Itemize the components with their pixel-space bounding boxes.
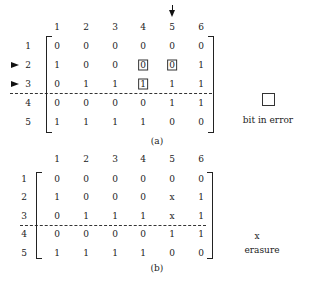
matrix-cell: 0	[54, 98, 60, 108]
matrix-cell: 1	[169, 79, 175, 89]
bit-in-error-cell: 0	[138, 60, 148, 71]
row-arrow-icon	[11, 62, 19, 68]
matrix-cell: 0	[169, 174, 175, 184]
bit-in-error-cell: 1	[138, 79, 148, 90]
matrix-cell: 1	[112, 211, 118, 221]
matrix-cell: 1	[198, 192, 204, 202]
matrix-cell: 0	[169, 248, 175, 258]
matrix-cell: 1	[83, 211, 89, 221]
matrix-cell: 0	[140, 41, 146, 51]
matrix-cell: 1	[198, 60, 204, 70]
matrix-cell: 1	[140, 248, 146, 258]
matrix-cell: 0	[198, 248, 204, 258]
matrix-cell: 0	[140, 98, 146, 108]
column-header: 5	[169, 22, 175, 32]
matrix-cell: 0	[140, 174, 146, 184]
matrix-cell: 1	[83, 79, 89, 89]
matrix-cell: 0	[54, 41, 60, 51]
bit-in-error-cell: 0	[167, 60, 177, 71]
matrix-cell: 0	[83, 174, 89, 184]
matrix-cell: 1	[83, 117, 89, 127]
column-arrow-stem	[172, 5, 173, 11]
matrix-cell: 1	[54, 192, 60, 202]
column-header: 1	[54, 22, 60, 32]
bit-in-error-legend-icon	[262, 93, 275, 106]
column-header: 1	[54, 154, 60, 164]
figure-caption: (b)	[151, 263, 164, 273]
matrix-cell: 0	[112, 229, 118, 239]
erasure-cell: x	[169, 211, 174, 221]
column-header: 4	[140, 22, 146, 32]
matrix-cell: 0	[54, 211, 60, 221]
column-header: 2	[83, 22, 89, 32]
row-arrow-icon	[11, 81, 19, 87]
parity-separator	[20, 225, 206, 226]
column-header: 5	[169, 154, 175, 164]
matrix-cell: 0	[169, 117, 175, 127]
column-header: 2	[83, 154, 89, 164]
column-header: 3	[112, 154, 118, 164]
matrix-cell: 0	[140, 192, 146, 202]
column-header: 6	[198, 154, 204, 164]
matrix-cell: 0	[112, 192, 118, 202]
matrix-cell: 0	[198, 41, 204, 51]
column-header: 4	[140, 154, 146, 164]
matrix-cell: 1	[198, 229, 204, 239]
matrix-cell: 0	[83, 41, 89, 51]
matrix-cell: 1	[83, 248, 89, 258]
row-label: 5	[21, 248, 27, 258]
row-label: 3	[21, 211, 27, 221]
row-label: 3	[25, 79, 31, 89]
row-label: 1	[21, 174, 27, 184]
matrix-cell: 1	[140, 117, 146, 127]
matrix-cell: 1	[198, 211, 204, 221]
row-label: 2	[25, 60, 31, 70]
row-label: 1	[25, 41, 31, 51]
matrix-cell: 1	[54, 60, 60, 70]
matrix-cell: 1	[140, 211, 146, 221]
left-bracket	[46, 36, 52, 133]
row-label: 5	[25, 117, 31, 127]
figure-caption: (a)	[151, 136, 163, 146]
matrix-cell: 0	[112, 174, 118, 184]
matrix-cell: 0	[54, 229, 60, 239]
column-arrow-icon	[169, 10, 175, 17]
right-bracket	[207, 172, 213, 259]
matrix-cell: 1	[169, 229, 175, 239]
matrix-cell: 0	[198, 117, 204, 127]
erasure-legend-label: erasure	[244, 245, 279, 255]
erasure-legend-symbol: x	[254, 231, 259, 241]
matrix-cell: 1	[198, 79, 204, 89]
matrix-cell: 0	[198, 174, 204, 184]
matrix-cell: 1	[112, 248, 118, 258]
parity-separator	[10, 93, 212, 94]
matrix-cell: 0	[54, 174, 60, 184]
column-header: 3	[112, 22, 118, 32]
matrix-cell: 0	[140, 229, 146, 239]
matrix-cell: 0	[112, 41, 118, 51]
column-header: 6	[198, 22, 204, 32]
left-bracket	[36, 172, 42, 259]
row-label: 4	[25, 98, 31, 108]
matrix-cell: 1	[169, 98, 175, 108]
matrix-cell: 0	[112, 98, 118, 108]
matrix-cell: 0	[54, 79, 60, 89]
matrix-cell: 0	[83, 229, 89, 239]
matrix-cell: 0	[83, 60, 89, 70]
matrix-cell: 1	[112, 79, 118, 89]
bit-in-error-legend-label: bit in error	[243, 115, 293, 125]
matrix-cell: 0	[112, 60, 118, 70]
matrix-cell: 0	[169, 41, 175, 51]
matrix-cell: 0	[83, 192, 89, 202]
right-bracket	[208, 36, 214, 133]
erasure-cell: x	[169, 192, 174, 202]
row-label: 2	[21, 192, 27, 202]
row-label: 4	[21, 229, 27, 239]
matrix-cell: 1	[54, 117, 60, 127]
matrix-cell: 1	[198, 98, 204, 108]
matrix-cell: 1	[112, 117, 118, 127]
matrix-cell: 1	[54, 248, 60, 258]
matrix-cell: 0	[83, 98, 89, 108]
